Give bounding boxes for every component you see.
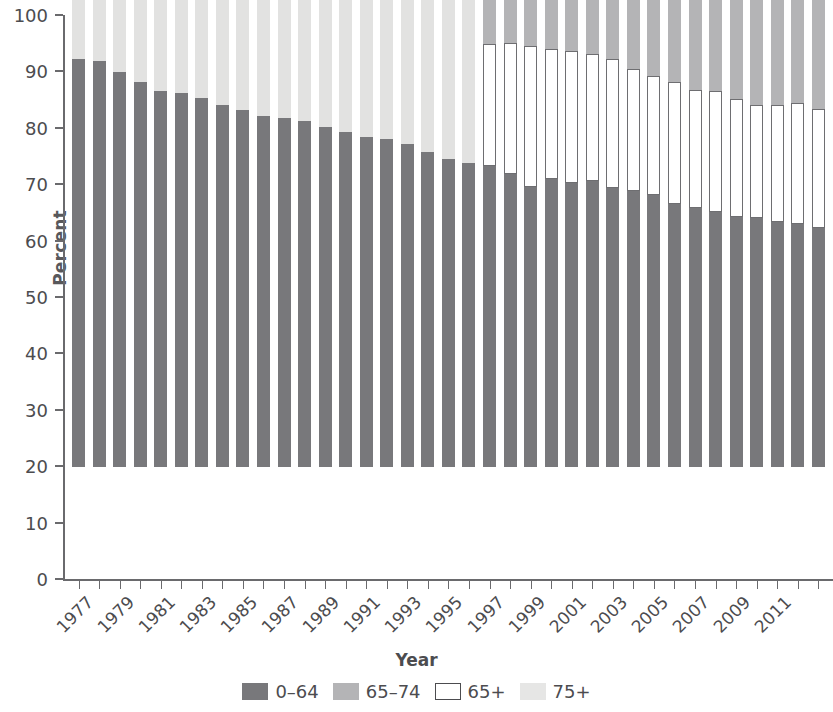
bar-segment (545, 179, 558, 467)
bar-group[interactable] (791, 0, 804, 467)
bar-group[interactable] (771, 0, 784, 467)
bar-segment (462, 0, 475, 163)
bar-group[interactable] (175, 0, 188, 467)
bar-group[interactable] (647, 0, 660, 467)
bar-segment (134, 82, 147, 467)
bar-group[interactable] (750, 0, 763, 467)
bar-segment (154, 0, 167, 91)
bar-group[interactable] (565, 0, 578, 467)
bar-segment (483, 44, 496, 166)
bar-segment (668, 204, 681, 467)
bar-segment (175, 93, 188, 467)
bar-segment (689, 208, 702, 467)
bar-group[interactable] (93, 0, 106, 467)
bar-segment (524, 46, 537, 186)
bar-group[interactable] (72, 0, 85, 467)
bar-segment (586, 54, 599, 181)
legend-item[interactable]: 0–64 (242, 681, 318, 702)
bar-segment (483, 0, 496, 44)
bar-segment (380, 0, 393, 139)
bar-group[interactable] (462, 0, 475, 467)
plot-area (0, 0, 833, 600)
bar-segment (771, 105, 784, 222)
bar-group[interactable] (586, 0, 599, 467)
bar-group[interactable] (278, 0, 291, 467)
bar-segment (442, 0, 455, 159)
bar-segment (442, 159, 455, 467)
bar-group[interactable] (154, 0, 167, 467)
bar-segment (339, 0, 352, 132)
bar-segment (545, 0, 558, 49)
legend-item[interactable]: 75+ (520, 681, 591, 702)
bar-group[interactable] (339, 0, 352, 467)
bar-group[interactable] (113, 0, 126, 467)
legend-label: 0–64 (275, 681, 318, 702)
bar-group[interactable] (319, 0, 332, 467)
legend-swatch-icon (435, 683, 461, 700)
legend-item[interactable]: 65+ (435, 681, 506, 702)
bar-segment (93, 0, 106, 61)
bar-segment (586, 181, 599, 467)
bar-segment (504, 43, 517, 173)
bar-group[interactable] (689, 0, 702, 467)
x-axis-title: Year (0, 650, 833, 670)
bar-group[interactable] (380, 0, 393, 467)
bar-segment (72, 0, 85, 59)
bar-segment (750, 105, 763, 218)
bar-segment (812, 109, 825, 227)
bar-group[interactable] (401, 0, 414, 467)
bar-segment (339, 132, 352, 467)
bar-group[interactable] (545, 0, 558, 467)
bar-segment (483, 166, 496, 467)
legend-item[interactable]: 65–74 (333, 681, 421, 702)
bar-segment (730, 99, 743, 217)
bar-segment (647, 76, 660, 195)
bar-group[interactable] (627, 0, 640, 467)
bar-segment (175, 0, 188, 93)
bar-segment (401, 0, 414, 144)
bar-group[interactable] (606, 0, 619, 467)
bar-segment (709, 0, 722, 91)
bar-group[interactable] (298, 0, 311, 467)
legend-label: 65–74 (366, 681, 421, 702)
bar-group[interactable] (812, 0, 825, 467)
bar-segment (730, 0, 743, 99)
bar-segment (627, 0, 640, 69)
bar-segment (134, 0, 147, 82)
bar-segment (627, 69, 640, 191)
bar-segment (113, 0, 126, 72)
bar-group[interactable] (236, 0, 249, 467)
bar-group[interactable] (360, 0, 373, 467)
bar-segment (504, 174, 517, 467)
bar-group[interactable] (257, 0, 270, 467)
bar-group[interactable] (134, 0, 147, 467)
bar-group[interactable] (195, 0, 208, 467)
bar-segment (421, 152, 434, 467)
bar-segment (113, 72, 126, 467)
bar-group[interactable] (730, 0, 743, 467)
bar-segment (668, 82, 681, 203)
bar-segment (812, 228, 825, 467)
bar-group[interactable] (668, 0, 681, 467)
bar-segment (462, 163, 475, 467)
bar-group[interactable] (216, 0, 229, 467)
bar-segment (627, 191, 640, 467)
bar-segment (812, 0, 825, 109)
bar-group[interactable] (483, 0, 496, 467)
bar-group[interactable] (421, 0, 434, 467)
bar-segment (278, 0, 291, 118)
bar-segment (750, 218, 763, 467)
bar-segment (586, 0, 599, 54)
bar-group[interactable] (524, 0, 537, 467)
bar-segment (524, 0, 537, 46)
bar-segment (236, 110, 249, 467)
bar-segment (154, 91, 167, 467)
bar-segment (791, 224, 804, 467)
bar-group[interactable] (709, 0, 722, 467)
bar-segment (606, 188, 619, 467)
bar-group[interactable] (442, 0, 455, 467)
bar-group[interactable] (504, 0, 517, 467)
legend-label: 75+ (553, 681, 591, 702)
legend-swatch-icon (520, 683, 546, 700)
bar-segment (360, 0, 373, 137)
